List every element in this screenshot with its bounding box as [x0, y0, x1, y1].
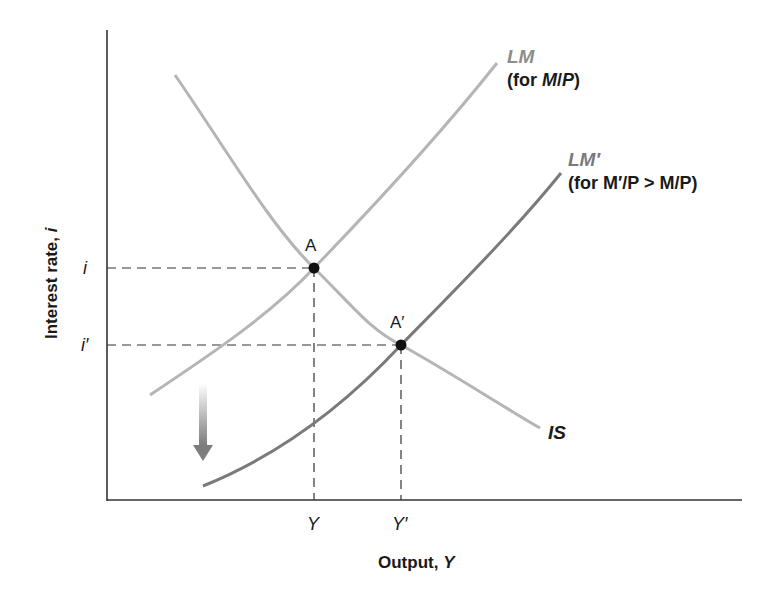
point-a-marker [309, 263, 320, 274]
y-axis-title-text: Interest rate, [42, 232, 61, 339]
shift-down-arrow-icon [193, 383, 213, 461]
point-a-prime-marker [396, 340, 407, 351]
x-axis-title-var: Y [443, 553, 454, 572]
x-tick-Y-prime: Y′ [392, 514, 407, 535]
is-curve [175, 75, 540, 428]
y-axis-title: Interest rate, i [42, 228, 62, 340]
y-tick-i-prime: i′ [81, 335, 88, 356]
lm-sub-prefix: (for [507, 70, 542, 90]
is-label: IS [548, 422, 566, 444]
islm-chart [0, 0, 779, 595]
lm-prime-label: LM′ [568, 149, 600, 171]
y-axis-title-var: i [42, 228, 61, 233]
x-axis-title: Output, Y [378, 553, 455, 573]
lm-sub-p: P [562, 70, 574, 90]
point-a-label: A [305, 236, 316, 256]
lm-label: LM [507, 46, 534, 68]
lm-sublabel: (for M/P) [507, 70, 580, 91]
x-axis-title-text: Output, [378, 553, 443, 572]
y-tick-i: i [83, 258, 87, 279]
lm-sub-suffix: ) [574, 70, 580, 90]
lm-prime-curve [203, 173, 561, 486]
lm-sub-m: M [542, 70, 557, 90]
point-a-prime-label: A′ [390, 313, 405, 333]
lm-prime-sublabel: (for M′/P > M/P) [568, 173, 698, 194]
x-tick-Y: Y [307, 514, 319, 535]
